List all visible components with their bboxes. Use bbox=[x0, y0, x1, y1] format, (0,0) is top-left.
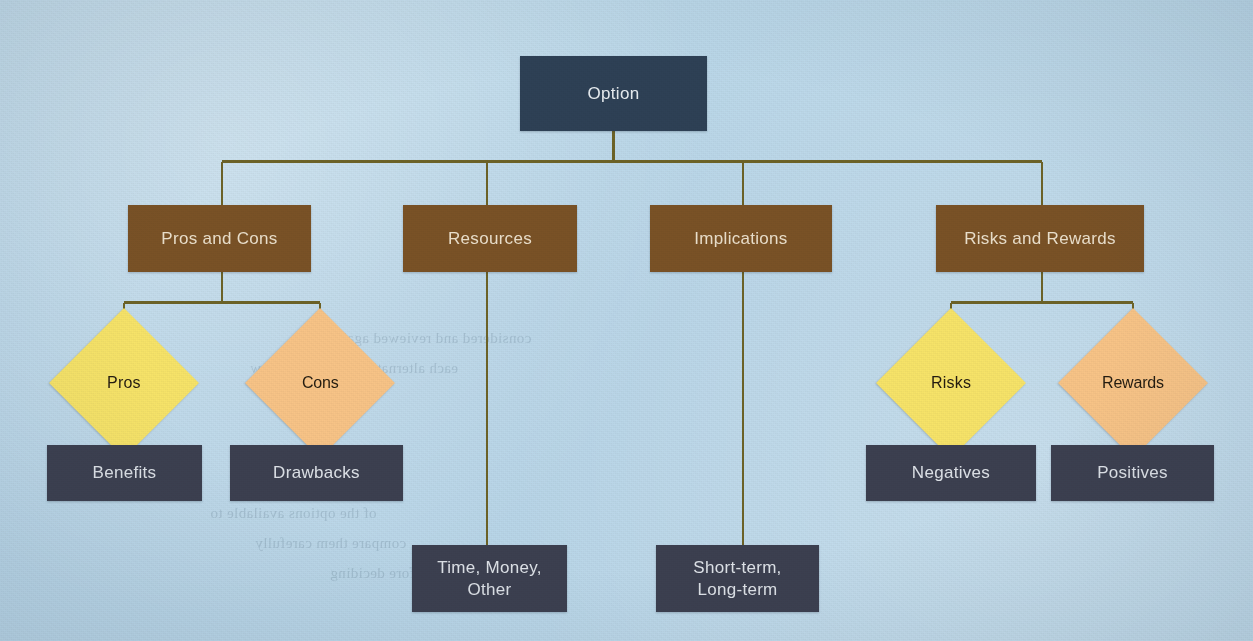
node-time-money-other[interactable]: Time, Money, Other bbox=[412, 545, 567, 612]
node-implications-label: Implications bbox=[694, 228, 787, 249]
node-option[interactable]: Option bbox=[520, 56, 707, 131]
node-short-long-term-line1: Short-term, bbox=[693, 557, 781, 578]
node-risks-and-rewards[interactable]: Risks and Rewards bbox=[936, 205, 1144, 272]
node-time-money-other-line2: Other bbox=[467, 579, 511, 600]
node-negatives[interactable]: Negatives bbox=[866, 445, 1036, 501]
node-short-long-term-line2: Long-term bbox=[697, 579, 777, 600]
node-resources[interactable]: Resources bbox=[403, 205, 577, 272]
node-short-long-term[interactable]: Short-term, Long-term bbox=[656, 545, 819, 612]
node-rewards[interactable]: Rewards bbox=[1058, 308, 1208, 458]
node-benefits[interactable]: Benefits bbox=[47, 445, 202, 501]
node-pros[interactable]: Pros bbox=[49, 308, 199, 458]
node-drawbacks-label: Drawbacks bbox=[273, 462, 360, 483]
node-cons[interactable]: Cons bbox=[245, 308, 395, 458]
node-drawbacks[interactable]: Drawbacks bbox=[230, 445, 403, 501]
node-option-label: Option bbox=[588, 83, 640, 104]
node-rewards-label: Rewards bbox=[1102, 374, 1164, 392]
showthrough-line-3: of the options available to bbox=[210, 505, 377, 522]
node-resources-label: Resources bbox=[448, 228, 532, 249]
node-benefits-label: Benefits bbox=[93, 462, 157, 483]
node-cons-label: Cons bbox=[302, 374, 339, 392]
node-positives-label: Positives bbox=[1097, 462, 1168, 483]
node-risks-label: Risks bbox=[931, 374, 971, 392]
node-pros-and-cons-label: Pros and Cons bbox=[161, 228, 277, 249]
diagram-canvas: considered and reviewed against the each… bbox=[0, 0, 1253, 641]
node-pros-and-cons[interactable]: Pros and Cons bbox=[128, 205, 311, 272]
node-negatives-label: Negatives bbox=[912, 462, 990, 483]
node-risks-and-rewards-label: Risks and Rewards bbox=[964, 228, 1116, 249]
node-implications[interactable]: Implications bbox=[650, 205, 832, 272]
node-time-money-other-line1: Time, Money, bbox=[437, 557, 542, 578]
node-positives[interactable]: Positives bbox=[1051, 445, 1214, 501]
node-risks[interactable]: Risks bbox=[876, 308, 1026, 458]
showthrough-line-4: compare them carefully bbox=[255, 535, 406, 552]
node-pros-label: Pros bbox=[107, 374, 141, 392]
